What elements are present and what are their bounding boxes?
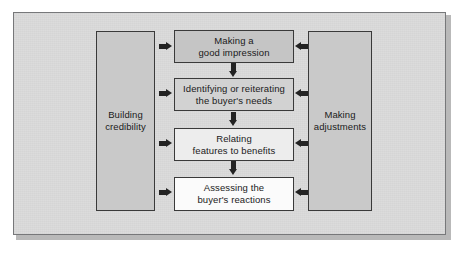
arrow-head xyxy=(295,42,301,50)
arrow-down-icon-step-2-to-step-3 xyxy=(229,112,238,126)
arrow-stem xyxy=(300,91,308,96)
arrow-head xyxy=(166,139,172,147)
arrow-head xyxy=(166,188,172,196)
arrow-left-icon-adjustments-to-step-4 xyxy=(295,188,308,197)
arrow-stem xyxy=(300,141,308,146)
arrow-right-icon-credibility-to-step-4 xyxy=(159,188,172,197)
arrow-right-icon-credibility-to-step-1 xyxy=(159,42,172,51)
arrow-left-icon-adjustments-to-step-1 xyxy=(295,42,308,51)
diagram-screenshot: Building credibility Making adjustments … xyxy=(0,0,467,253)
node-making-adjustments[interactable]: Making adjustments xyxy=(308,31,372,211)
arrow-stem xyxy=(300,190,308,195)
node-step-4-label: Assessing the buyer's reactions xyxy=(194,182,273,205)
arrow-right-icon-credibility-to-step-2 xyxy=(159,89,172,98)
arrow-right-icon-credibility-to-step-3 xyxy=(159,139,172,148)
node-step-identifying-buyers-needs[interactable]: Identifying or reiterating the buyer's n… xyxy=(174,78,294,111)
node-step-2-label: Identifying or reiterating the buyer's n… xyxy=(180,83,288,106)
node-step-relating-features-to-benefits[interactable]: Relating features to benefits xyxy=(174,128,294,161)
arrow-left-icon-adjustments-to-step-2 xyxy=(295,89,308,98)
node-building-credibility[interactable]: Building credibility xyxy=(96,31,155,211)
node-step-assessing-buyers-reactions[interactable]: Assessing the buyer's reactions xyxy=(174,177,294,211)
arrow-down-icon-step-3-to-step-4 xyxy=(229,161,238,175)
arrow-head xyxy=(166,89,172,97)
arrow-head xyxy=(295,139,301,147)
node-step-1-label: Making a good impression xyxy=(195,35,272,58)
node-making-adjustments-label: Making adjustments xyxy=(311,109,369,132)
node-building-credibility-label: Building credibility xyxy=(102,109,149,132)
arrow-stem xyxy=(300,44,308,49)
arrow-head xyxy=(229,71,237,77)
node-step-3-label: Relating features to benefits xyxy=(190,133,279,156)
arrow-head xyxy=(229,120,237,126)
node-step-making-a-good-impression[interactable]: Making a good impression xyxy=(174,30,294,63)
arrow-head xyxy=(295,89,301,97)
arrow-left-icon-adjustments-to-step-3 xyxy=(295,139,308,148)
arrow-down-icon-step-1-to-step-2 xyxy=(229,63,238,77)
arrow-head xyxy=(166,42,172,50)
arrow-head xyxy=(295,188,301,196)
arrow-head xyxy=(229,169,237,175)
